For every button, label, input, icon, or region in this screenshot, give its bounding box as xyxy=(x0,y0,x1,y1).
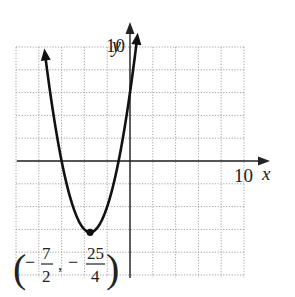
comma: , xyxy=(58,255,62,274)
y-tick-10: 10 xyxy=(106,35,125,56)
vertex-point xyxy=(87,229,94,236)
parabola-curve xyxy=(45,39,137,233)
y-axis-arrow-icon xyxy=(126,22,135,34)
minus-sign: − xyxy=(68,252,78,272)
x-axis-label: x xyxy=(261,163,271,184)
vertex-y-denominator: 4 xyxy=(91,267,100,286)
curve-right-arrow-icon xyxy=(131,33,141,46)
vertex-x-denominator: 2 xyxy=(42,267,51,286)
parabola-chart: y 10 10 x ( − 7 2 , − 25 4 ) xyxy=(0,0,295,297)
vertex-y-numerator: 25 xyxy=(87,244,104,263)
vertex-x-numerator: 7 xyxy=(42,244,51,263)
x-tick-10: 10 xyxy=(234,165,253,186)
minus-sign: − xyxy=(25,252,35,272)
vertex-label: ( − 7 2 , − 25 4 ) xyxy=(13,244,119,291)
curve-left-arrow-icon xyxy=(41,48,51,61)
right-paren: ) xyxy=(106,246,119,291)
